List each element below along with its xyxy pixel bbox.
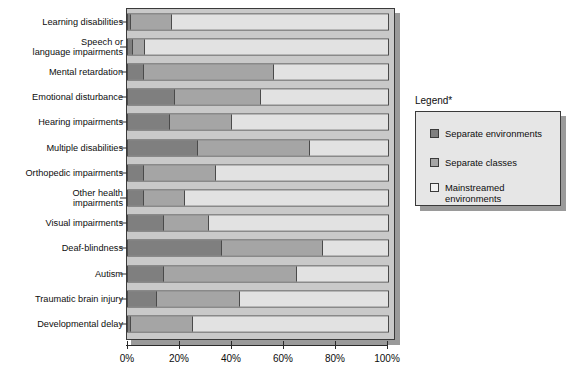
bar-segment xyxy=(128,241,222,256)
stacked-bar xyxy=(127,315,389,332)
legend-item: Separate environments xyxy=(430,128,542,139)
category-label: Speech or language impairments xyxy=(0,36,123,57)
chart-row: Visual impairments xyxy=(0,211,400,236)
bar-segment xyxy=(131,14,173,29)
x-axis-tick-label: 20% xyxy=(169,353,189,364)
legend-label: Separate classes xyxy=(445,157,517,168)
x-axis-tick-label: 40% xyxy=(221,353,241,364)
chart-row: Other health impairments xyxy=(0,185,400,210)
bar-segment xyxy=(193,316,388,331)
x-axis-tick xyxy=(335,341,336,349)
stacked-bar xyxy=(127,13,389,30)
bar-segment xyxy=(209,216,388,231)
category-label: Developmental delay xyxy=(0,319,123,330)
bar-segment xyxy=(240,291,388,306)
x-axis-tick-label: 100% xyxy=(374,353,400,364)
x-axis-line xyxy=(126,345,388,346)
x-axis-tick xyxy=(283,341,284,349)
bar-segment xyxy=(128,266,164,281)
stacked-bar xyxy=(127,240,389,257)
bar-segment xyxy=(232,115,388,130)
stacked-bar xyxy=(127,164,389,181)
stacked-bar xyxy=(127,290,389,307)
bar-segment xyxy=(128,165,144,180)
stacked-bar xyxy=(127,265,389,282)
chart-row: Hearing impairments xyxy=(0,110,400,135)
bar-segment xyxy=(128,115,170,130)
bar-segment xyxy=(323,241,388,256)
category-label: Autism xyxy=(0,268,123,279)
chart-row: Mental retardation xyxy=(0,59,400,84)
chart-row: Developmental delay xyxy=(0,311,400,336)
x-axis-tick-label: 0% xyxy=(120,353,134,364)
category-label: Hearing impairments xyxy=(0,117,123,128)
bar-segment xyxy=(164,266,297,281)
stacked-bar-chart: Learning disabilitiesSpeech or language … xyxy=(0,0,400,376)
bar-segment xyxy=(198,140,310,155)
bar-segment xyxy=(128,90,175,105)
stacked-bar xyxy=(127,114,389,131)
category-label: Emotional disturbance xyxy=(0,92,123,103)
legend-box: Separate environmentsSeparate classesMai… xyxy=(415,111,561,206)
bar-segment xyxy=(144,64,274,79)
legend-item: Mainstreamed environments xyxy=(430,182,504,204)
category-label: Other health impairments xyxy=(0,187,123,208)
bar-segment xyxy=(185,190,388,205)
bar-segment xyxy=(145,39,388,54)
legend-label: Separate environments xyxy=(445,128,542,139)
category-label: Mental retardation xyxy=(0,67,123,78)
bar-segment xyxy=(128,216,164,231)
bar-segment xyxy=(261,90,388,105)
x-axis-tick-label: 80% xyxy=(325,353,345,364)
legend-swatch-icon xyxy=(430,158,439,167)
x-axis-tick xyxy=(387,341,388,349)
bar-segment xyxy=(131,316,193,331)
category-label: Traumatic brain injury xyxy=(0,294,123,305)
legend-title: Legend* xyxy=(415,95,452,106)
chart-row: Deaf-blindness xyxy=(0,236,400,261)
bar-segment xyxy=(170,115,232,130)
bar-segment xyxy=(144,165,217,180)
stacked-bar xyxy=(127,89,389,106)
category-label: Learning disabilities xyxy=(0,16,123,27)
x-axis-tick xyxy=(127,341,128,349)
chart-row: Orthopedic impairments xyxy=(0,160,400,185)
chart-page: Learning disabilitiesSpeech or language … xyxy=(0,0,583,376)
bar-segment xyxy=(216,165,388,180)
bar-segment xyxy=(310,140,388,155)
legend-swatch-icon xyxy=(430,129,439,138)
bar-segment xyxy=(172,14,388,29)
chart-row: Autism xyxy=(0,261,400,286)
bar-segment xyxy=(175,90,261,105)
bar-segment xyxy=(128,64,144,79)
stacked-bar xyxy=(127,189,389,206)
category-label: Multiple disabilities xyxy=(0,142,123,153)
stacked-bar xyxy=(127,38,389,55)
x-axis-tick-label: 60% xyxy=(273,353,293,364)
bar-segment xyxy=(222,241,323,256)
x-axis-tick xyxy=(231,341,232,349)
chart-row: Traumatic brain injury xyxy=(0,286,400,311)
chart-row: Speech or language impairments xyxy=(0,34,400,59)
category-label: Deaf-blindness xyxy=(0,243,123,254)
chart-rows: Learning disabilitiesSpeech or language … xyxy=(0,0,400,340)
chart-row: Learning disabilities xyxy=(0,9,400,34)
legend-item: Separate classes xyxy=(430,157,517,168)
bar-segment xyxy=(274,64,388,79)
bar-segment xyxy=(128,140,198,155)
bar-segment xyxy=(157,291,240,306)
bar-segment xyxy=(164,216,208,231)
stacked-bar xyxy=(127,63,389,80)
x-axis-tick xyxy=(179,341,180,349)
bar-segment xyxy=(297,266,388,281)
chart-row: Emotional disturbance xyxy=(0,85,400,110)
chart-row: Multiple disabilities xyxy=(0,135,400,160)
bar-segment xyxy=(144,190,186,205)
stacked-bar xyxy=(127,139,389,156)
bar-segment xyxy=(128,291,157,306)
category-label: Visual impairments xyxy=(0,218,123,229)
category-label: Orthopedic impairments xyxy=(0,168,123,179)
bar-segment xyxy=(133,39,145,54)
legend-label: Mainstreamed environments xyxy=(445,182,504,204)
legend-swatch-icon xyxy=(430,183,439,192)
